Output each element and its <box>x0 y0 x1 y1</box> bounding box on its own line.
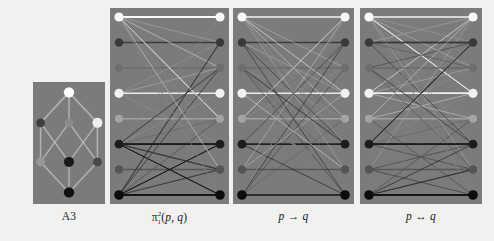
figure-panel-group: A3 π21(p, q) p → q p ↔ q <box>0 0 494 241</box>
caption-impl-q: q <box>302 210 308 222</box>
caption-implication: p → q <box>233 210 354 222</box>
caption-a3-text: A3 <box>62 210 76 222</box>
caption-pi-1-2: π21(p, q) <box>110 210 229 226</box>
caption-a3: A3 <box>33 210 105 222</box>
implication-svg <box>233 8 354 204</box>
panel-pi-1-2[interactable] <box>110 8 229 204</box>
arrow-both-icon: ↔ <box>415 210 427 222</box>
caption-equiv-p: p <box>406 210 412 222</box>
caption-equivalence: p ↔ q <box>360 210 482 222</box>
equivalence-svg <box>360 8 482 204</box>
lattice-a3-svg <box>33 82 105 204</box>
panel-implication[interactable] <box>233 8 354 204</box>
panel-lattice-a3[interactable] <box>33 82 105 204</box>
panel-equivalence[interactable] <box>360 8 482 204</box>
page-watermark-text-2 <box>20 34 25 54</box>
caption-equiv-q: q <box>430 210 436 222</box>
caption-pi-paren-close: ) <box>183 211 187 223</box>
caption-impl-p: p <box>279 210 285 222</box>
page-watermark-text <box>14 6 19 26</box>
arrow-right-icon: → <box>288 210 300 222</box>
pi-1-2-svg <box>110 8 229 204</box>
